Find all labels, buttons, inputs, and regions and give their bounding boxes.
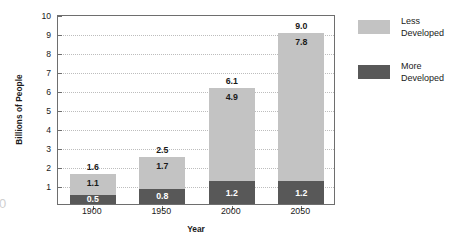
total-label-1900: 1.6 xyxy=(70,162,116,172)
y-tick-mark xyxy=(58,130,62,131)
x-axis-title: Year xyxy=(57,224,335,234)
segment-less-developed-2000[interactable]: 4.9 xyxy=(209,88,255,181)
y-tick-mark xyxy=(58,92,62,93)
y-tick-label: 4 xyxy=(21,125,51,135)
value-label-more-1900: 0.5 xyxy=(70,194,116,204)
plot-area: 123456789100.51.11.60.81.72.51.24.96.11.… xyxy=(57,15,335,205)
x-tick-label-2050: 2050 xyxy=(265,206,335,216)
segment-less-developed-1900[interactable]: 1.1 xyxy=(70,174,116,195)
y-tick-mark xyxy=(58,16,62,17)
bar-1900[interactable]: 0.51.11.6 xyxy=(70,174,116,204)
y-tick-label: 3 xyxy=(21,144,51,154)
x-tick-label-1950: 1950 xyxy=(126,206,196,216)
segment-more-developed-2050[interactable]: 1.2 xyxy=(278,181,324,204)
segment-less-developed-1950[interactable]: 1.7 xyxy=(139,157,185,189)
y-tick-mark xyxy=(58,149,62,150)
bar-1950[interactable]: 0.81.72.5 xyxy=(139,157,185,205)
y-tick-mark xyxy=(58,111,62,112)
bar-2050[interactable]: 1.27.89.0 xyxy=(278,33,324,204)
page-number-artifact: 0 xyxy=(0,196,5,211)
y-tick-label: 5 xyxy=(21,106,51,116)
legend-label-less-developed: Less Developed xyxy=(401,16,444,39)
y-tick-label: 1 xyxy=(21,182,51,192)
value-label-less-2050: 7.8 xyxy=(278,37,324,47)
legend-label-more-developed: More Developed xyxy=(401,61,444,84)
value-label-less-2000: 4.9 xyxy=(209,92,255,102)
x-tick-label-2000: 2000 xyxy=(196,206,266,216)
total-label-1950: 2.5 xyxy=(139,145,185,155)
value-label-more-1950: 0.8 xyxy=(139,191,185,201)
y-tick-mark xyxy=(58,73,62,74)
value-label-less-1950: 1.7 xyxy=(139,161,185,171)
y-tick-mark xyxy=(58,54,62,55)
y-tick-label: 7 xyxy=(21,68,51,78)
x-tick-label-1900: 1900 xyxy=(57,206,127,216)
value-label-less-1900: 1.1 xyxy=(70,178,116,188)
y-tick-label: 2 xyxy=(21,163,51,173)
segment-more-developed-2000[interactable]: 1.2 xyxy=(209,181,255,204)
y-tick-label: 10 xyxy=(21,11,51,21)
y-tick-mark xyxy=(58,187,62,188)
legend-swatch-less-developed xyxy=(358,20,390,34)
y-tick-mark xyxy=(58,35,62,36)
y-tick-label: 9 xyxy=(21,30,51,40)
y-tick-label: 6 xyxy=(21,87,51,97)
total-label-2000: 6.1 xyxy=(209,76,255,86)
population-stacked-bar-chart: 0 Billions of People 123456789100.51.11.… xyxy=(0,0,461,239)
total-label-2050: 9.0 xyxy=(278,21,324,31)
legend-swatch-more-developed xyxy=(358,65,390,79)
value-label-more-2000: 1.2 xyxy=(209,188,255,198)
segment-less-developed-2050[interactable]: 7.8 xyxy=(278,33,324,181)
y-tick-label: 8 xyxy=(21,49,51,59)
value-label-more-2050: 1.2 xyxy=(278,188,324,198)
segment-more-developed-1900[interactable]: 0.5 xyxy=(70,195,116,205)
y-tick-mark xyxy=(58,168,62,169)
bar-2000[interactable]: 1.24.96.1 xyxy=(209,88,255,204)
segment-more-developed-1950[interactable]: 0.8 xyxy=(139,189,185,204)
